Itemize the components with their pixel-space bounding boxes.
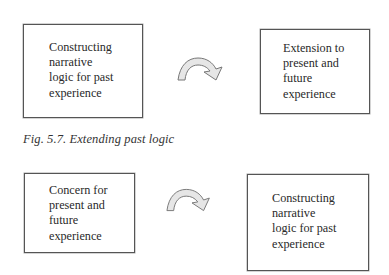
curved-arrow-right-icon: [165, 186, 219, 214]
box-line: future: [283, 71, 344, 86]
box-constructing-narrative-logic-bottom: Constructing narrative logic for past ex…: [247, 174, 369, 271]
box-line: present and: [49, 198, 108, 213]
box-concern-for-present-future: Concern for present and future experienc…: [24, 173, 135, 253]
box-line: logic for past: [49, 70, 113, 85]
box-line: Extension to: [283, 41, 344, 56]
box-text: Concern for present and future experienc…: [49, 183, 108, 244]
box-line: present and: [283, 56, 344, 71]
box-line: narrative: [49, 55, 113, 70]
box-line: future: [49, 213, 108, 228]
box-line: experience: [283, 87, 344, 102]
box-text: Extension to present and future experien…: [283, 41, 344, 102]
box-text: Constructing narrative logic for past ex…: [49, 40, 113, 101]
box-line: narrative: [272, 206, 336, 221]
box-line: Constructing: [49, 40, 113, 55]
figure-caption: Fig. 5.7. Extending past logic: [23, 132, 174, 147]
box-line: experience: [272, 237, 336, 252]
box-line: experience: [49, 229, 108, 244]
curved-arrow-right-icon: [176, 55, 232, 83]
box-line: experience: [49, 86, 113, 101]
box-line: Constructing: [272, 191, 336, 206]
box-constructing-narrative-logic: Constructing narrative logic for past ex…: [23, 24, 143, 118]
box-extension-to-present-future: Extension to present and future experien…: [260, 29, 370, 114]
box-text: Constructing narrative logic for past ex…: [272, 191, 336, 252]
box-line: logic for past: [272, 221, 336, 236]
box-line: Concern for: [49, 183, 108, 198]
